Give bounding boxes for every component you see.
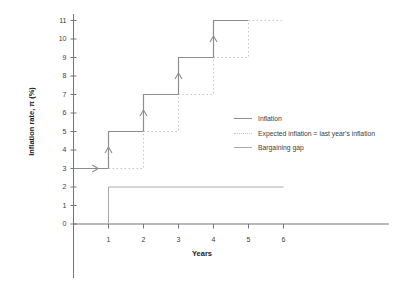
svg-text:2: 2 bbox=[63, 183, 67, 190]
y-axis-title: Inflation rate, π (%) bbox=[26, 62, 37, 182]
svg-text:4: 4 bbox=[63, 146, 67, 153]
legend-label-bargaining-gap: Bargaining gap bbox=[258, 143, 304, 152]
svg-text:6: 6 bbox=[63, 109, 67, 116]
chart-legend: Inflation Expected inflation = last year… bbox=[234, 114, 375, 158]
legend-item-inflation: Inflation bbox=[234, 114, 375, 123]
series-line-inflation bbox=[74, 21, 249, 169]
inflation-line-swatch bbox=[234, 118, 252, 119]
series-line-bargaining-gap bbox=[109, 187, 284, 224]
svg-text:6: 6 bbox=[282, 236, 286, 243]
expected-inflation-line-swatch bbox=[234, 133, 252, 134]
legend-label-expected-inflation: Expected inflation = last year's inflati… bbox=[258, 129, 375, 138]
svg-text:1: 1 bbox=[107, 236, 111, 243]
svg-text:1: 1 bbox=[63, 202, 67, 209]
svg-text:0: 0 bbox=[63, 220, 67, 227]
svg-text:5: 5 bbox=[63, 128, 67, 135]
legend-label-inflation: Inflation bbox=[258, 114, 282, 123]
svg-text:9: 9 bbox=[63, 54, 67, 61]
svg-text:8: 8 bbox=[63, 72, 67, 79]
inflation-expectations-chart: 01234567891011123456 Inflation rate, π (… bbox=[0, 0, 410, 289]
svg-text:10: 10 bbox=[59, 35, 67, 42]
svg-text:4: 4 bbox=[212, 236, 216, 243]
direction-arrows bbox=[92, 36, 217, 172]
legend-item-bargaining-gap: Bargaining gap bbox=[234, 143, 375, 152]
svg-text:5: 5 bbox=[247, 236, 251, 243]
svg-text:2: 2 bbox=[142, 236, 146, 243]
x-axis-title: Years bbox=[152, 249, 252, 258]
svg-text:3: 3 bbox=[177, 236, 181, 243]
svg-text:7: 7 bbox=[63, 91, 67, 98]
legend-item-expected-inflation: Expected inflation = last year's inflati… bbox=[234, 129, 375, 138]
svg-text:11: 11 bbox=[59, 17, 66, 24]
bargaining-gap-line-swatch bbox=[234, 147, 252, 148]
svg-text:3: 3 bbox=[63, 165, 67, 172]
